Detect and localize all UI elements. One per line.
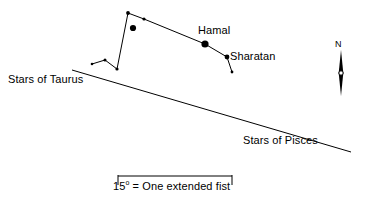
star-dots-group [91,11,234,73]
star-label-sharatan: Sharatan [230,50,275,62]
star-apex [126,11,130,15]
star-bright-inner [130,25,136,31]
star-sharatan [225,55,230,60]
star-chart-canvas [0,0,367,206]
star-left-peak [104,59,107,62]
aries-asterism-line [92,13,232,72]
scale-bar-caption: 15o = One extended fist [113,180,230,192]
region-label-stars-of-taurus: Stars of Taurus [8,73,83,85]
constellation-lines [92,13,232,72]
north-arrow-hub-icon [339,71,343,75]
star-mesarthim [231,71,234,74]
star-upper-right [142,17,145,20]
north-arrow-group [339,50,344,96]
scale-bar-caption-rest: = One extended fist [129,180,230,192]
star-lower-bend [115,67,118,70]
star-hamal [201,40,208,47]
north-arrow-label: N [335,39,342,49]
scale-bar-value: 15 [113,180,125,192]
north-arrow-lower-needle-icon [339,73,344,96]
star-chart-figure: Hamal Sharatan Stars of Taurus Stars of … [0,0,367,206]
star-label-hamal: Hamal [198,24,230,36]
north-arrow-upper-needle-icon [339,50,344,73]
star-left-tail [91,63,94,66]
region-label-stars-of-pisces: Stars of Pisces [243,134,318,146]
